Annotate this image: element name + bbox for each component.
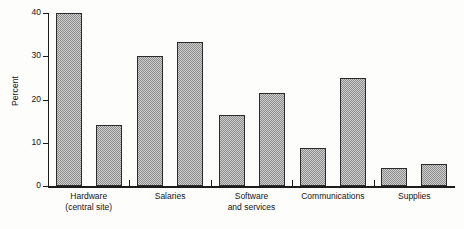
bar [259, 93, 285, 186]
bar-chart-figure: Percent 010203040 Hardware (central site… [0, 0, 464, 229]
bar [137, 56, 163, 186]
plot-area [48, 13, 455, 186]
y-axis-title: Percent [10, 56, 20, 126]
bar [56, 13, 82, 186]
bar [219, 115, 245, 186]
bar [421, 164, 447, 186]
bar [300, 148, 326, 186]
bar [340, 78, 366, 186]
x-axis-line [48, 186, 455, 188]
y-axis-tick-label: 20 [16, 95, 41, 104]
bar [177, 42, 203, 186]
y-axis-tick-label: 0 [16, 181, 41, 190]
y-axis-tick-label: 10 [16, 138, 41, 147]
bar [381, 168, 407, 186]
bar [96, 125, 122, 186]
y-axis-tick-label: 40 [16, 8, 41, 17]
y-axis-tick-label: 30 [16, 51, 41, 60]
x-axis-group-label: Supplies [362, 191, 464, 202]
